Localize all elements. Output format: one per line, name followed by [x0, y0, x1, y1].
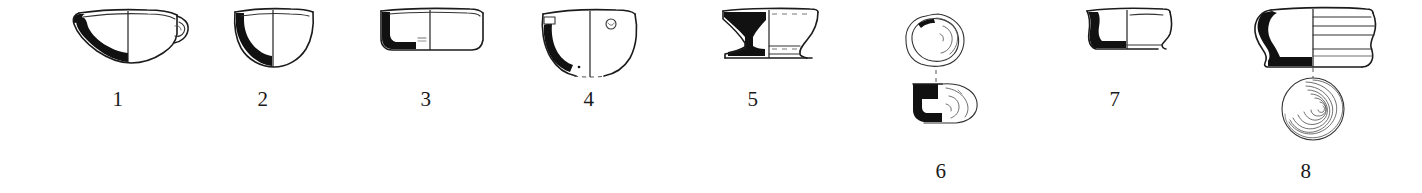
figure-7-inner-rim-line [1130, 14, 1163, 15]
figure-1-inner-rim-line [83, 14, 175, 19]
figure-6-plan-detail-3 [940, 34, 943, 41]
figure-5-section-fill [724, 12, 766, 56]
figure-8-svg [1244, 4, 1390, 144]
figure-4-small-dot [578, 66, 581, 69]
figure-3-svg [372, 4, 492, 64]
figure-6-profile-detail-3 [946, 104, 951, 111]
figure-4-rim-line [543, 10, 635, 14]
figure-2-rim-line [235, 9, 313, 12]
figure-6-svg [896, 4, 1006, 144]
figure-5-outline-right [800, 12, 818, 58]
figure-4-section-fill [544, 23, 573, 72]
figure-4-svg [534, 4, 648, 84]
figure-1-drawing [62, 4, 194, 76]
figure-4-outline-right [604, 14, 637, 76]
figure-8-base-ring-7 [1311, 102, 1326, 116]
figure-2-drawing [222, 4, 326, 76]
figure-4-perforation-inner [608, 23, 614, 25]
figure-6-drawing [896, 4, 1006, 144]
figure-1-label: 1 [98, 89, 138, 110]
figure-8-base-ring-1 [1289, 80, 1343, 138]
figure-5-rim-line [723, 8, 818, 12]
figure-5-svg [712, 4, 830, 66]
figure-8-outline-right [1362, 13, 1375, 67]
figure-6-plan-outline [906, 14, 964, 66]
figure-4-base-dashed-right [590, 76, 605, 77]
figure-7-rim-line [1087, 8, 1170, 12]
figure-3-label: 3 [406, 89, 446, 110]
figure-7-outline-right [1162, 12, 1172, 49]
figure-3-drawing [372, 4, 492, 64]
figure-2-label: 2 [243, 89, 283, 110]
figure-4-label: 4 [569, 89, 609, 110]
figure-6-plan-detail-2 [941, 26, 952, 53]
figure-1-lug-hair [175, 26, 181, 30]
figure-5-drawing [712, 4, 830, 66]
figure-7-label: 7 [1095, 89, 1135, 110]
figure-5-label: 5 [733, 89, 773, 110]
figure-4-perforation-icon [606, 19, 616, 29]
figure-6-label: 6 [921, 161, 961, 182]
figure-2-section-fill [236, 13, 272, 66]
figure-8-base-ring-8 [1318, 106, 1325, 112]
figure-1-svg [62, 4, 194, 76]
figure-3-section-fill [382, 12, 416, 49]
figure-8-base-ring-6 [1304, 98, 1326, 120]
figure-4-drawing [534, 4, 648, 84]
figure-7-section-fill [1088, 12, 1126, 48]
figure-4-base-dashed-left [574, 76, 590, 77]
figure-8-label: 8 [1286, 161, 1326, 182]
figure-8-drawing [1244, 4, 1390, 144]
figure-4-section-break [544, 17, 555, 24]
pottery-plate: 1 2 3 [0, 0, 1422, 193]
figure-6-plan-detail-1 [936, 18, 958, 54]
figure-6-plan-edge-fill [918, 19, 935, 28]
figure-6-profile-detail-1 [946, 88, 968, 117]
figure-7-svg [1078, 4, 1182, 64]
figure-2-svg [222, 4, 326, 76]
figure-7-drawing [1078, 4, 1182, 64]
figure-8-rim-line [1271, 8, 1373, 13]
figure-3-inner-rim-line [389, 12, 480, 16]
figure-6-profile-section-fill [913, 84, 942, 122]
figure-2-inner-rim-line [241, 14, 309, 16]
